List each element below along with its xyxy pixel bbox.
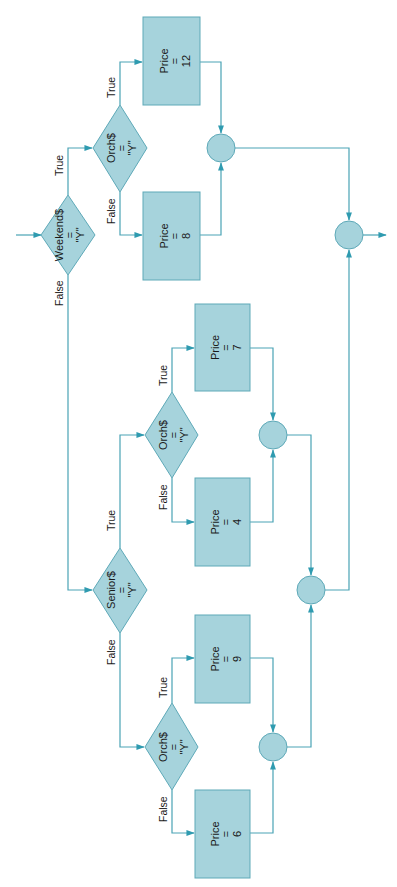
process-price-4: Price = 4 <box>195 478 250 566</box>
price9-to-merge <box>250 658 273 732</box>
weekend-merge-to-final <box>235 148 349 220</box>
orch-regular-true-label: True <box>157 677 169 698</box>
senior-false-connector <box>120 633 144 747</box>
decision-senior: Senior$ = "Y" <box>93 548 147 633</box>
orch-weekend-true-connector <box>120 62 142 105</box>
decision-val: "Y" <box>178 739 190 754</box>
merge-circle-nonweekend <box>297 576 325 604</box>
regular-merge-to-nonweekend <box>287 605 311 747</box>
process-val: 7 <box>231 344 243 350</box>
orch-senior-true-connector <box>172 348 194 392</box>
senior-true-connector <box>120 435 144 548</box>
senior-false-label: False <box>105 639 117 665</box>
orch-regular-false-label: False <box>157 796 169 822</box>
senior-true-label: True <box>105 510 117 531</box>
ticket-price-flowchart: True False True False True False True Fa… <box>0 0 397 887</box>
branch-labels: True False True False True False True Fa… <box>53 77 169 822</box>
orch-weekend-true-label: True <box>105 77 117 98</box>
orch-senior-true-label: True <box>157 365 169 386</box>
process-val: 9 <box>231 656 243 662</box>
process-val: 4 <box>231 519 243 525</box>
orch-senior-false-connector <box>172 478 194 522</box>
decision-weekend: Weekend$ = "Y" <box>41 195 95 275</box>
price6-to-merge <box>250 762 273 833</box>
orch-regular-true-connector <box>172 658 194 703</box>
merge-circle-final <box>335 221 363 249</box>
connectors <box>16 62 386 833</box>
weekend-true-label: True <box>53 155 65 176</box>
orch-senior-false-label: False <box>157 484 169 510</box>
weekend-true-connector <box>68 148 92 195</box>
price12-to-merge <box>200 62 221 133</box>
decision-val: "Y" <box>178 427 190 442</box>
process-price-8: Price = 8 <box>143 192 200 280</box>
merge-circle-senior <box>259 421 287 449</box>
decision-orch-weekend: Orch$ = "Y" <box>93 105 147 192</box>
decision-val: "Y" <box>74 227 86 242</box>
process-val: 12 <box>180 55 192 67</box>
merge-circle-weekend <box>207 134 235 162</box>
process-price-12: Price = 12 <box>143 17 200 105</box>
nonweekend-merge-to-final <box>325 250 349 590</box>
process-price-6: Price = 6 <box>195 790 250 878</box>
senior-merge-to-nonweekend <box>287 435 311 575</box>
orch-weekend-false-label: False <box>105 198 117 224</box>
process-val: 6 <box>231 831 243 837</box>
process-price-7: Price = 7 <box>195 304 250 391</box>
orch-weekend-false-connector <box>120 192 142 235</box>
price4-to-merge <box>250 450 273 522</box>
orch-regular-false-connector <box>172 790 194 833</box>
price8-to-merge <box>200 163 221 235</box>
price7-to-merge <box>250 348 273 420</box>
decision-val: "Y" <box>126 582 138 597</box>
decision-orch-regular: Orch$ = "Y" <box>145 703 198 790</box>
process-val: 8 <box>180 233 192 239</box>
weekend-false-connector <box>68 275 92 590</box>
merge-circle-regular <box>259 733 287 761</box>
process-price-9: Price = 9 <box>195 615 250 703</box>
weekend-false-label: False <box>53 280 65 306</box>
decision-val: "Y" <box>126 140 138 155</box>
decision-orch-senior: Orch$ = "Y" <box>145 392 198 478</box>
